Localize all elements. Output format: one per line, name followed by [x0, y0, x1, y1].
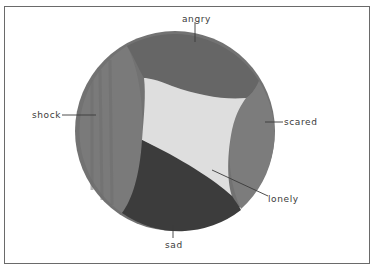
label-sad: sad: [165, 240, 183, 250]
label-shock: shock: [32, 110, 61, 120]
label-scared: scared: [284, 117, 318, 127]
label-angry: angry: [182, 14, 211, 24]
emotion-circle-diagram: angry shock scared lonely sad: [0, 0, 372, 272]
label-lonely: lonely: [268, 194, 299, 204]
